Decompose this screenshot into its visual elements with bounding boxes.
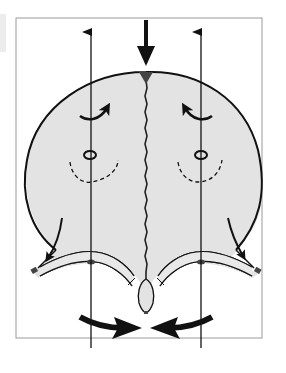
skull-outline [26, 72, 263, 287]
skull-suture-diagram [0, 0, 286, 373]
central-bottom-oval [138, 279, 153, 313]
